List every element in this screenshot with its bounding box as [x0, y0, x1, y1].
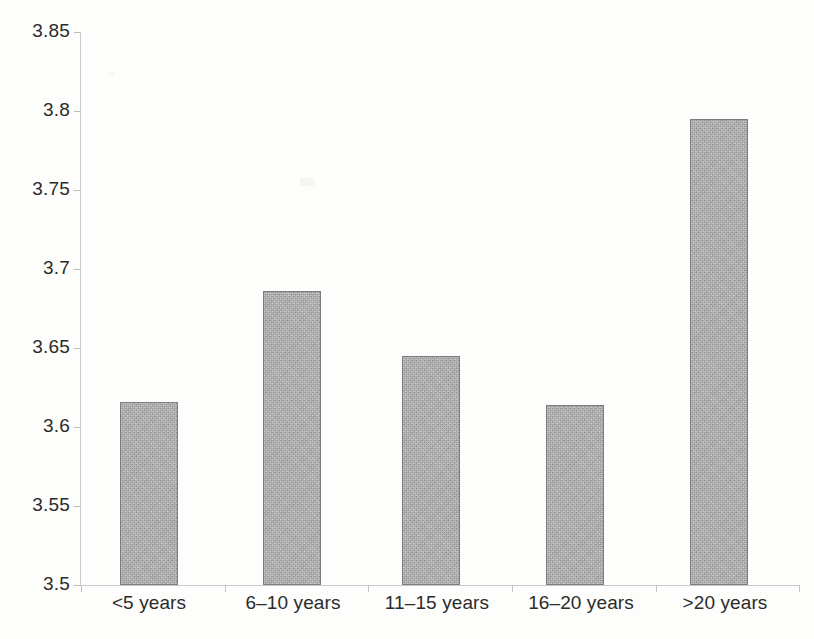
y-tick-label: 3.5: [10, 573, 70, 595]
y-tick-label-group: 3.5: [8, 573, 70, 597]
bar-chart-figure: 3.85 3.8 3.75 3.7 3.65 3.6 3.55 3.5: [0, 0, 814, 639]
y-tick-label-group: 3.6: [8, 415, 70, 439]
x-axis-tick: [512, 585, 513, 592]
x-axis-tick: [656, 585, 657, 592]
y-tick-label-group: 3.8: [8, 99, 70, 123]
y-tick-label: 3.55: [10, 494, 70, 516]
bar-gt-20-years: [690, 119, 748, 585]
x-category-label: 6–10 years: [220, 592, 366, 614]
y-tick-label-group: 3.85: [8, 20, 70, 44]
y-tick-label-group: 3.65: [8, 336, 70, 360]
y-tick-label: 3.85: [10, 20, 70, 42]
x-category-label: <5 years: [76, 592, 222, 614]
x-category-label: >20 years: [652, 592, 798, 614]
y-tick-label: 3.6: [10, 415, 70, 437]
bar-16-20-years: [546, 405, 604, 585]
y-tick-label: 3.65: [10, 336, 70, 358]
x-axis-tick: [81, 585, 82, 592]
bar-lt-5-years: [120, 402, 178, 585]
y-tick-label: 3.75: [10, 178, 70, 200]
y-tick-label-group: 3.75: [8, 178, 70, 202]
plot-area: [81, 32, 800, 585]
bar-11-15-years: [402, 356, 460, 585]
bar-6-10-years: [263, 291, 321, 585]
y-tick-label: 3.8: [10, 99, 70, 121]
y-tick-label-group: 3.7: [8, 257, 70, 281]
x-axis-line: [81, 585, 800, 586]
x-category-label: 16–20 years: [508, 592, 654, 614]
x-axis-tick: [799, 585, 800, 592]
y-tick-label: 3.7: [10, 257, 70, 279]
x-axis-tick: [225, 585, 226, 592]
x-axis-tick: [368, 585, 369, 592]
x-category-label: 11–15 years: [364, 592, 510, 614]
y-tick-label-group: 3.55: [8, 494, 70, 518]
